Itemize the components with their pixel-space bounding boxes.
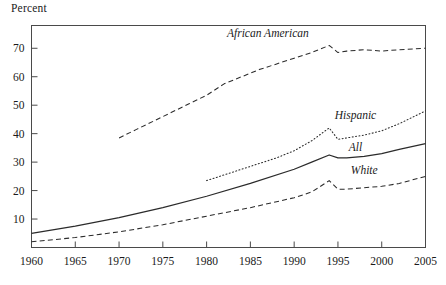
series-label-african-american: African American	[226, 27, 309, 40]
plot-frame	[32, 26, 426, 248]
svg-text:1960: 1960	[20, 255, 43, 267]
svg-text:40: 40	[13, 128, 25, 140]
series-line-white	[32, 176, 426, 241]
svg-text:2000: 2000	[370, 255, 393, 267]
svg-text:1965: 1965	[64, 255, 87, 267]
svg-text:2005: 2005	[414, 255, 437, 267]
svg-text:20: 20	[13, 185, 25, 197]
x-axis-ticks: 1960196519701975198019851990199520002005	[20, 242, 437, 267]
series-line-african-american	[119, 45, 425, 138]
series-labels: African AmericanHispanicAllWhite	[226, 27, 378, 176]
svg-text:30: 30	[13, 156, 25, 168]
svg-text:50: 50	[13, 99, 25, 111]
series-label-hispanic: Hispanic	[334, 109, 377, 122]
series-label-all: All	[348, 141, 362, 153]
series-line-all	[32, 144, 426, 234]
svg-text:1980: 1980	[195, 255, 218, 267]
svg-text:1995: 1995	[326, 255, 349, 267]
svg-text:1975: 1975	[151, 255, 174, 267]
svg-text:60: 60	[13, 71, 25, 83]
series-line-hispanic	[207, 111, 426, 181]
svg-text:1990: 1990	[283, 255, 306, 267]
y-axis-ticks: 10203040506070	[13, 42, 38, 225]
svg-text:1970: 1970	[108, 255, 131, 267]
series-label-white: White	[351, 164, 378, 176]
chart-container: Percent 10203040506070 19601965197019751…	[0, 0, 446, 285]
svg-text:1985: 1985	[239, 255, 262, 267]
svg-text:10: 10	[13, 213, 25, 225]
series-lines	[32, 45, 426, 241]
svg-text:70: 70	[13, 42, 25, 54]
line-chart: 10203040506070 1960196519701975198019851…	[0, 0, 446, 285]
